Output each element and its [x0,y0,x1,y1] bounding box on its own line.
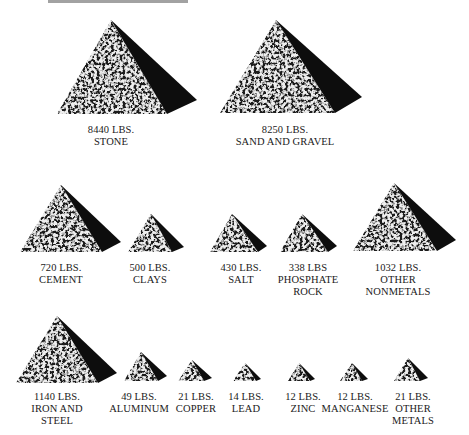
label-sand-and-gravel: 8250 LBS.SAND AND GRAVEL [236,124,335,148]
amount-text: 338 LBS [278,262,338,274]
amount-text: 1140 LBS. [31,391,82,403]
amount-text: 14 LBS. [228,391,264,403]
pyramid-other-metals [394,358,428,382]
label-phosphate-rock: 338 LBSPHOSPHATEROCK [278,262,338,298]
label-other-nonmetals: 1032 LBS.OTHERNONMETALS [366,262,431,298]
amount-text: 12 LBS. [285,391,321,403]
material-name: SALT [220,274,261,286]
pyramid-phosphate-rock [280,214,337,253]
material-name: STONE [88,136,134,148]
material-name: CLAYS [129,274,170,286]
pyramid-zinc [288,363,315,382]
amount-text: 21 LBS. [392,391,434,403]
pyramid-manganese [340,363,368,382]
amount-text: 430 LBS. [220,262,261,274]
material-name: PHOSPHATE [278,274,338,286]
amount-text: 8250 LBS. [236,124,335,136]
pyramid-cement [20,185,121,253]
pyramid-lead [233,363,261,382]
material-name: SAND AND GRAVEL [236,136,335,148]
amount-text: 21 LBS. [176,391,216,403]
material-name: OTHER [392,403,434,415]
label-other-metals: 21 LBS.OTHERMETALS [392,391,434,427]
label-manganese: 12 LBS.MANGANESE [322,391,389,415]
amount-text: 49 LBS. [109,391,169,403]
material-name: IRON AND [31,403,82,415]
material-name: ROCK [278,286,338,298]
material-name: STEEL [31,415,82,427]
label-lead: 14 LBS.LEAD [228,391,264,415]
pyramid-other-nonmetals [353,183,456,252]
label-iron-and-steel: 1140 LBS.IRON ANDSTEEL [31,391,82,427]
amount-text: 500 LBS. [129,262,170,274]
pyramid-iron-and-steel [16,316,117,384]
pyramid-salt [210,214,267,253]
amount-text: 720 LBS. [39,262,83,274]
material-name: COPPER [176,403,216,415]
pyramid-stone [57,20,197,115]
pyramid-illustration [0,0,469,435]
material-name: MANGANESE [322,403,389,415]
material-name: METALS [392,415,434,427]
pyramid-sand-and-gravel [220,20,362,114]
pyramid-copper [178,360,212,382]
label-copper: 21 LBS.COPPER [176,391,216,415]
pyramid-aluminum [124,352,167,382]
pyramid-group [16,20,456,384]
label-salt: 430 LBS.SALT [220,262,261,286]
material-name: NONMETALS [366,286,431,298]
label-cement: 720 LBS.CEMENT [39,262,83,286]
amount-text: 12 LBS. [322,391,389,403]
amount-text: 8440 LBS. [88,124,134,136]
label-clays: 500 LBS.CLAYS [129,262,170,286]
material-name: OTHER [366,274,431,286]
amount-text: 1032 LBS. [366,262,431,274]
material-name: ZINC [285,403,321,415]
material-name: CEMENT [39,274,83,286]
material-name: LEAD [228,403,264,415]
label-zinc: 12 LBS.ZINC [285,391,321,415]
label-stone: 8440 LBS.STONE [88,124,134,148]
pyramid-clays [128,214,184,253]
label-aluminum: 49 LBS.ALUMINUM [109,391,169,415]
material-name: ALUMINUM [109,403,169,415]
